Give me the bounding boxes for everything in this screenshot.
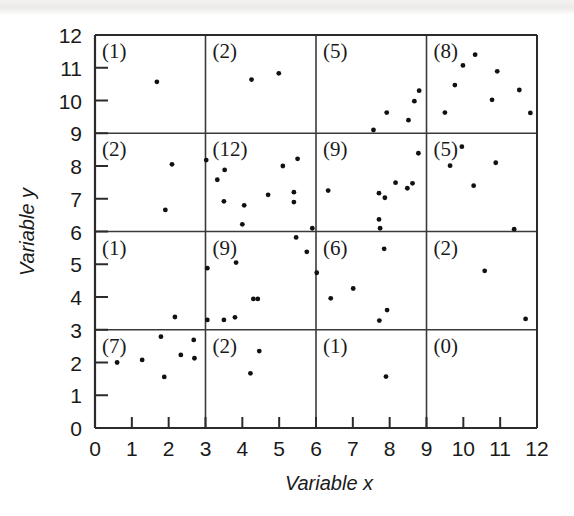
data-point bbox=[266, 192, 271, 197]
data-point bbox=[459, 144, 464, 149]
data-point bbox=[159, 334, 164, 339]
data-point bbox=[326, 188, 331, 193]
data-point bbox=[523, 317, 528, 322]
data-point bbox=[410, 181, 415, 186]
data-point bbox=[393, 180, 398, 185]
data-point bbox=[205, 318, 210, 323]
x-tick-label: 11 bbox=[489, 437, 511, 460]
data-point bbox=[416, 151, 421, 156]
data-point bbox=[382, 246, 387, 251]
data-point bbox=[249, 77, 254, 82]
y-tick-label: 6 bbox=[70, 221, 82, 244]
data-point bbox=[406, 118, 411, 123]
data-point bbox=[242, 203, 247, 208]
data-point bbox=[222, 318, 227, 323]
x-tick-label: 5 bbox=[273, 437, 285, 460]
cell-count-label: (2) bbox=[434, 236, 459, 260]
data-point bbox=[222, 199, 227, 204]
y-tick-label: 1 bbox=[70, 384, 82, 407]
y-tick-label: 5 bbox=[70, 253, 82, 276]
data-point bbox=[385, 308, 390, 313]
data-point bbox=[215, 177, 220, 182]
data-point bbox=[377, 191, 382, 196]
data-point bbox=[490, 97, 495, 102]
data-point bbox=[493, 160, 498, 165]
x-tick-label: 10 bbox=[452, 437, 475, 460]
data-point bbox=[310, 226, 315, 231]
data-point bbox=[471, 183, 476, 188]
data-point bbox=[255, 297, 260, 302]
data-point bbox=[251, 297, 256, 302]
cell-count-label: (2) bbox=[213, 334, 238, 358]
cell-count-label: (7) bbox=[102, 334, 127, 358]
data-point bbox=[495, 69, 500, 74]
data-point bbox=[371, 128, 376, 133]
data-point bbox=[240, 222, 245, 227]
cell-count-label: (1) bbox=[102, 39, 127, 63]
data-point bbox=[178, 353, 183, 358]
data-point bbox=[170, 162, 175, 167]
data-point bbox=[384, 374, 389, 379]
data-point bbox=[162, 375, 167, 380]
data-point bbox=[163, 207, 168, 212]
data-point bbox=[204, 158, 209, 163]
data-point bbox=[222, 168, 227, 173]
data-point bbox=[140, 357, 145, 362]
x-tick-label: 12 bbox=[525, 437, 548, 460]
data-point bbox=[192, 356, 197, 361]
data-point bbox=[528, 111, 533, 116]
cell-count-label: (2) bbox=[213, 39, 238, 63]
x-tick-label: 3 bbox=[200, 437, 212, 460]
data-point bbox=[473, 52, 478, 57]
y-tick-label: 4 bbox=[70, 286, 82, 309]
data-point bbox=[294, 235, 299, 240]
data-point bbox=[378, 226, 383, 231]
data-point bbox=[115, 360, 120, 365]
data-point bbox=[280, 164, 285, 169]
data-point bbox=[233, 315, 238, 320]
x-tick-label: 8 bbox=[384, 437, 396, 460]
data-point bbox=[234, 260, 239, 265]
cell-count-label: (9) bbox=[213, 236, 238, 260]
x-tick-label: 2 bbox=[163, 437, 175, 460]
data-point bbox=[173, 315, 178, 320]
cell-count-label: (2) bbox=[102, 137, 127, 161]
cell-count-label: (5) bbox=[323, 39, 348, 63]
x-tick-label: 4 bbox=[236, 437, 248, 460]
data-point bbox=[154, 79, 159, 84]
grid-lines bbox=[95, 35, 537, 428]
data-point bbox=[328, 296, 333, 301]
data-point bbox=[461, 63, 466, 68]
data-point bbox=[482, 268, 487, 273]
y-tick-label: 9 bbox=[70, 122, 82, 145]
data-point bbox=[304, 249, 309, 254]
data-point bbox=[417, 88, 422, 93]
x-axis-title: Variable x bbox=[285, 472, 374, 494]
y-tick-label: 8 bbox=[70, 155, 82, 178]
x-tick-label: 6 bbox=[310, 437, 322, 460]
data-point bbox=[292, 200, 297, 205]
data-point bbox=[205, 266, 210, 271]
cell-count-label: (1) bbox=[102, 236, 127, 260]
data-point bbox=[191, 338, 196, 343]
data-point bbox=[292, 190, 297, 195]
cell-count-label: (12) bbox=[213, 137, 248, 161]
x-axis-tick-labels: 0123456789101112 bbox=[89, 437, 549, 460]
data-point bbox=[314, 270, 319, 275]
cell-count-labels: (1)(2)(5)(8)(2)(12)(9)(5)(1)(9)(6)(2)(7)… bbox=[102, 39, 458, 358]
y-tick-label: 12 bbox=[59, 24, 82, 47]
y-tick-label: 2 bbox=[70, 352, 82, 375]
y-tick-label: 3 bbox=[70, 319, 82, 342]
data-point bbox=[351, 286, 356, 291]
data-point bbox=[412, 99, 417, 104]
data-point bbox=[295, 156, 300, 161]
y-tick-label: 0 bbox=[70, 417, 82, 440]
cell-count-label: (0) bbox=[434, 334, 459, 358]
scatter-plot-figure: 0123456789101112 0123456789101112 (1)(2)… bbox=[0, 0, 574, 516]
y-tick-label: 7 bbox=[70, 188, 82, 211]
data-point bbox=[257, 349, 262, 354]
data-point bbox=[443, 110, 448, 115]
data-point bbox=[512, 227, 517, 232]
cell-count-label: (8) bbox=[434, 39, 459, 63]
data-point bbox=[248, 371, 253, 376]
